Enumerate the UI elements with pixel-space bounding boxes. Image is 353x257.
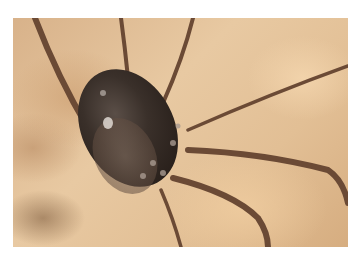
harvestman-illustration xyxy=(13,18,348,247)
harvestman-photo xyxy=(13,18,348,247)
